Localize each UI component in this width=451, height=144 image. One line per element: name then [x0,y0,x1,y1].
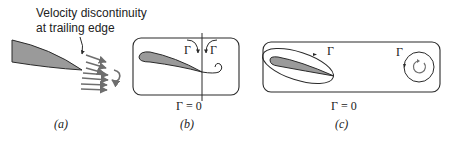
panel-c: Γ Γ Γ = 0 (c) [258,41,440,131]
figure: Velocity discontinuity at trailing edge … [0,0,451,144]
starting-vortex-curl [202,63,222,73]
annotation-pointer-arrow [80,37,83,54]
vortex-circulation-arrowhead [403,64,406,68]
caption-a: (a) [54,117,68,131]
eddy-curl-icon [112,70,120,81]
caption-c: (c) [335,117,348,131]
total-circulation-b: Γ = 0 [176,99,202,113]
airfoil-circulation-arrowhead [313,53,317,56]
starting-vortex-arrowhead [417,59,420,63]
annotation-line-2: at trailing edge [36,21,115,35]
starting-vortex-swirl [413,61,425,73]
gamma-right-label: Γ [210,43,217,57]
panel-b: Γ Γ Γ = 0 (b) [133,33,239,131]
vortex-circulation-contour [404,52,434,82]
panel-a: Velocity discontinuity at trailing edge … [12,6,147,131]
airfoil-b [139,52,202,72]
lower-velocity-vectors [81,73,108,90]
trailing-edge-wedge [12,40,82,70]
gamma-vortex-label: Γ [396,45,403,59]
caption-b: (b) [180,117,194,131]
upper-velocity-vectors [86,55,106,73]
total-circulation-c: Γ = 0 [331,99,357,113]
gamma-left-label: Γ [184,43,191,57]
gamma-airfoil-label: Γ [327,44,334,58]
annotation-line-1: Velocity discontinuity [36,6,147,20]
